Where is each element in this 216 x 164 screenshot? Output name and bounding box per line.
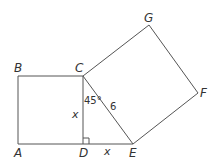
label-side-cd: x [71,108,79,121]
square-cefg [83,25,198,144]
label-e: E [129,146,137,160]
label-angle-dce: 45° [84,95,102,106]
label-a: A [13,146,22,160]
label-side-de: x [103,145,111,158]
label-hypotenuse-ce: 6 [110,101,116,112]
label-d: D [79,146,88,160]
label-b: B [14,61,22,75]
geometry-diagram: A B C D E F G x x 6 45° [0,0,216,164]
label-c: C [75,61,84,75]
right-angle-marker [83,138,89,144]
label-g: G [144,11,153,25]
label-f: F [200,86,208,100]
